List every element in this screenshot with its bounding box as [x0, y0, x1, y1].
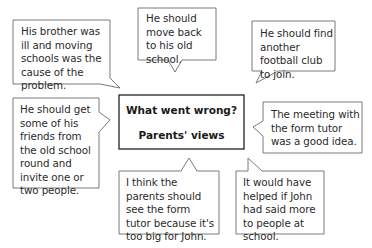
bubble-top-center-text: He should move back to his old school.: [146, 12, 214, 66]
center-subtitle: Parents' views: [119, 129, 244, 141]
bubble-top-right-text: He should find another football club to …: [260, 27, 334, 81]
bubble-middle-right-text: The meeting with the form tutor was a go…: [271, 108, 361, 149]
bubble-bottom-center-text: I think the parents should see the form …: [126, 176, 218, 244]
bubble-middle-left-text: He should get some of his friends from t…: [20, 103, 98, 198]
center-title: What went wrong?: [119, 104, 244, 116]
bubble-top-left-text: His brother was ill and moving schools w…: [21, 25, 107, 93]
bubble-bottom-right-text: It would have helped if John had said mo…: [243, 176, 323, 244]
